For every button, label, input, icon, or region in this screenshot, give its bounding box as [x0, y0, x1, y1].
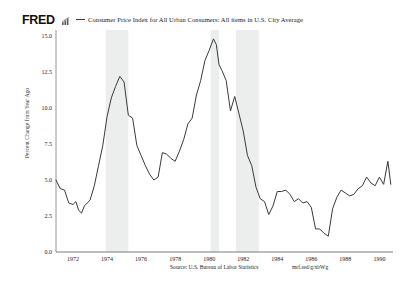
recession-band	[236, 30, 259, 252]
plot-area: Percent Change from Year Ago 0.02.55.07.…	[0, 0, 405, 286]
series-plot	[0, 0, 405, 286]
fred-chart-figure: FRED Consumer Price Index for All Urban …	[0, 0, 405, 286]
recession-band	[211, 30, 220, 252]
source-note: Source: U.S. Bureau of Labor Statistics	[170, 264, 258, 270]
recession-band	[106, 30, 129, 252]
short-url: mrf.red/g/xbWg	[292, 264, 328, 270]
